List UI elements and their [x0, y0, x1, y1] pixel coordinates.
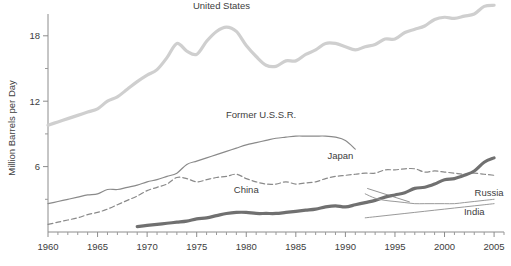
oil-consumption-line-chart: 6121819601965197019751980198519901995200…: [0, 0, 511, 266]
y-tick-label: 6: [35, 161, 40, 172]
series-line-former-u-s-s-r: [48, 136, 355, 204]
series-line-china: [137, 158, 494, 227]
x-tick-label: 1965: [87, 241, 108, 252]
y-tick-label: 12: [29, 96, 40, 107]
x-tick-label: 1985: [285, 241, 306, 252]
series-labels-group: United StatesFormer U.S.S.R.JapanChinaRu…: [193, 0, 504, 217]
x-tick-label: 1975: [186, 241, 207, 252]
former-ussr-label: Former U.S.S.R.: [226, 109, 296, 120]
x-tick-label: 2005: [484, 241, 505, 252]
x-tick-label: 1990: [335, 241, 356, 252]
series-line-japan: [48, 168, 494, 224]
x-tick-label: 1970: [137, 241, 158, 252]
united-states-label: United States: [193, 0, 250, 11]
india-label: India: [464, 206, 485, 217]
x-tick-label: 1995: [384, 241, 405, 252]
x-tick-label: 2000: [434, 241, 455, 252]
chart-canvas: 6121819601965197019751980198519901995200…: [0, 0, 511, 266]
y-tick-label: 18: [29, 30, 40, 41]
china-label: China: [234, 184, 260, 195]
x-tick-label: 1980: [236, 241, 257, 252]
series-line-united-states: [48, 5, 494, 125]
russia-label: Russia: [475, 187, 505, 198]
japan-label: Japan: [327, 150, 353, 161]
x-tick-label: 1960: [37, 241, 58, 252]
y-axis-title: Million Barrels per Day: [6, 80, 17, 176]
